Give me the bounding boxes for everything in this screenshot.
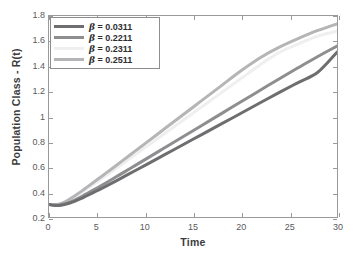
- beta-value: = 0.2311: [95, 44, 132, 54]
- x-tick-mark: [339, 213, 340, 217]
- legend: β = 0.0311β = 0.2211β = 0.2311β = 0.2511: [50, 17, 160, 69]
- legend-swatch: [54, 58, 84, 61]
- x-tick-label: 15: [188, 222, 198, 232]
- x-tick-label: 25: [285, 222, 295, 232]
- x-axis-tick-labels: 051015202530: [48, 222, 338, 236]
- x-tick-mark: [291, 16, 292, 20]
- y-tick-mark: [333, 16, 337, 17]
- y-tick-label: 0.2: [32, 213, 45, 223]
- x-tick-label: 20: [236, 222, 246, 232]
- legend-swatch: [54, 36, 84, 39]
- legend-entry: β = 0.2211: [54, 32, 155, 43]
- y-tick-label: 1.6: [32, 35, 45, 45]
- x-tick-mark: [339, 16, 340, 20]
- y-tick-mark: [49, 143, 53, 144]
- legend-entry: β = 0.2311: [54, 43, 155, 54]
- x-tick-mark: [194, 16, 195, 20]
- x-tick-mark: [242, 213, 243, 217]
- y-tick-mark: [49, 118, 53, 119]
- x-tick-mark: [146, 213, 147, 217]
- legend-entry: β = 0.2511: [54, 54, 155, 65]
- legend-swatch: [54, 47, 84, 50]
- y-tick-mark: [333, 92, 337, 93]
- x-tick-mark: [242, 16, 243, 20]
- y-tick-mark: [49, 92, 53, 93]
- y-tick-label: 0.4: [32, 188, 45, 198]
- y-tick-mark: [333, 118, 337, 119]
- y-tick-mark: [333, 168, 337, 169]
- legend-label: β = 0.2311: [89, 44, 132, 54]
- y-tick-label: 1: [40, 112, 45, 122]
- y-tick-mark: [333, 67, 337, 68]
- y-tick-label: 0.6: [32, 162, 45, 172]
- y-tick-mark: [333, 219, 337, 220]
- legend-swatch: [54, 25, 84, 28]
- legend-label: β = 0.2511: [89, 55, 132, 65]
- y-tick-mark: [49, 194, 53, 195]
- y-tick-mark: [49, 168, 53, 169]
- y-tick-label: 1.2: [32, 86, 45, 96]
- x-tick-label: 0: [45, 222, 50, 232]
- beta-value: = 0.2211: [95, 33, 132, 43]
- beta-value: = 0.2511: [95, 55, 132, 65]
- legend-label: β = 0.0311: [89, 22, 132, 32]
- x-tick-label: 5: [94, 222, 99, 232]
- data-line-beta-0.2211: [49, 46, 337, 205]
- legend-entry: β = 0.0311: [54, 21, 155, 32]
- x-tick-mark: [97, 213, 98, 217]
- chart-figure: 0.20.40.60.811.21.41.61.8 051015202530 T…: [0, 0, 358, 260]
- x-tick-label: 30: [333, 222, 343, 232]
- y-axis-title: Population Class - R(t): [10, 6, 22, 209]
- y-tick-label: 1.8: [32, 10, 45, 20]
- y-tick-label: 0.8: [32, 137, 45, 147]
- y-tick-mark: [333, 41, 337, 42]
- y-tick-label: 1.4: [32, 61, 45, 71]
- x-tick-label: 10: [140, 222, 150, 232]
- x-tick-mark: [49, 213, 50, 217]
- y-tick-mark: [49, 219, 53, 220]
- x-tick-mark: [291, 213, 292, 217]
- beta-value: = 0.0311: [95, 22, 132, 32]
- x-axis-title: Time: [48, 236, 338, 248]
- x-tick-mark: [194, 213, 195, 217]
- legend-label: β = 0.2211: [89, 33, 132, 43]
- y-tick-mark: [333, 143, 337, 144]
- y-tick-mark: [333, 194, 337, 195]
